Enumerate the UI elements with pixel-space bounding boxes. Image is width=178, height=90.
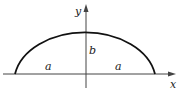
x-axis-label: x [170, 78, 177, 90]
half-ellipse-curve [15, 32, 155, 74]
x-axis-arrow-icon [168, 72, 176, 77]
y-axis [84, 4, 89, 88]
x-axis [3, 72, 176, 77]
semi-major-left-label: a [45, 60, 52, 73]
y-axis-arrow-icon [84, 4, 89, 12]
semi-major-right-label: a [115, 60, 122, 73]
semi-minor-label: b [89, 44, 96, 57]
half-ellipse-diagram: y x b a a [0, 0, 178, 90]
y-axis-label: y [74, 5, 82, 18]
